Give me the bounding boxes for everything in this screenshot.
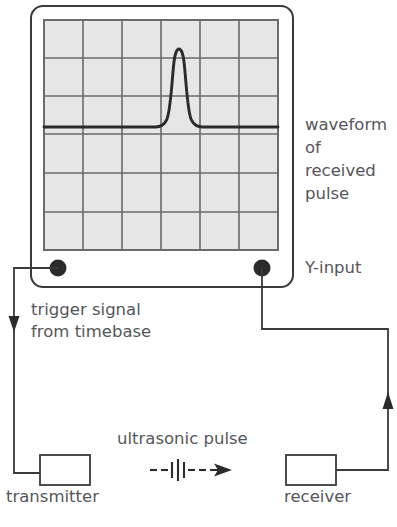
signal-wire-path [262, 268, 388, 470]
trigger-signal-label: trigger signal from timebase [31, 299, 151, 343]
receiver-label: receiver [284, 487, 351, 506]
receiver-block[interactable] [286, 455, 336, 485]
oscilloscope-screen [44, 20, 278, 250]
diagram-canvas: waveform of received pulse Y-input trigg… [0, 0, 397, 527]
transmitter-block[interactable] [40, 455, 90, 485]
y-input-label: Y-input [305, 258, 362, 277]
trigger-arrow-down-icon [9, 316, 20, 332]
signal-wire [262, 268, 394, 470]
receiver-box[interactable] [286, 455, 336, 485]
transmitter-box[interactable] [40, 455, 90, 485]
ultrasonic-pulse-symbol [150, 459, 232, 481]
signal-arrow-up-icon [383, 392, 394, 409]
transmitter-label: transmitter [6, 487, 99, 506]
ultrasonic-pulse-label: ultrasonic pulse [117, 429, 248, 448]
waveform-label: waveform of received pulse [305, 113, 387, 205]
